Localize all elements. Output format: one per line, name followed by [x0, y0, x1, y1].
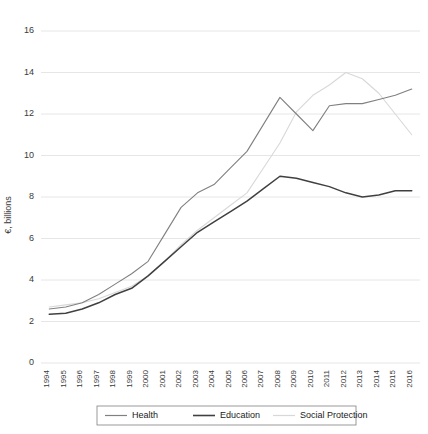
- legend-label-social-protection: Social Protection: [300, 410, 368, 420]
- y-axis-tick-label: 2: [29, 316, 34, 326]
- x-axis-tick-labels: 1994199519961997199819992000200120022003…: [42, 369, 414, 387]
- series-line-social-protection: [49, 73, 412, 307]
- x-axis-tick-label: 2000: [141, 369, 150, 387]
- x-axis-tick-label: 2007: [256, 369, 265, 387]
- y-axis-tick-label: 6: [29, 233, 34, 243]
- x-axis-tick-label: 2009: [289, 369, 298, 387]
- x-axis-tick-label: 1998: [108, 369, 117, 387]
- x-axis-tick-label: 2016: [405, 369, 414, 387]
- y-axis-tick-label: 10: [24, 150, 34, 160]
- y-axis-tick-labels: 0246810121416: [24, 25, 34, 367]
- y-axis-tick-label: 8: [29, 191, 34, 201]
- x-axis-tick-label: 2004: [207, 369, 216, 387]
- y-axis-title: €, billions: [3, 196, 13, 234]
- x-axis-tick-label: 2013: [355, 369, 364, 387]
- x-axis-tick-label: 2011: [322, 369, 331, 387]
- x-axis-tick-label: 1995: [59, 369, 68, 387]
- x-axis-tick-label: 2001: [158, 369, 167, 387]
- series-line-health: [49, 89, 412, 309]
- y-axis-tick-label: 0: [29, 357, 34, 367]
- x-axis-tick-label: 1997: [92, 369, 101, 387]
- x-axis-tick-label: 2002: [174, 369, 183, 387]
- x-axis-tick-label: 2010: [306, 369, 315, 387]
- x-axis-tick-label: 2005: [224, 369, 233, 387]
- legend-label-education: Education: [220, 410, 260, 420]
- x-axis-tick-label: 2006: [240, 369, 249, 387]
- chart-legend: HealthEducationSocial Protection: [97, 406, 368, 425]
- y-axis-tick-label: 4: [29, 274, 34, 284]
- x-axis-tick-label: 1999: [125, 369, 134, 387]
- line-chart: 0246810121416 19941995199619971998199920…: [0, 0, 428, 434]
- x-axis-tick-label: 2014: [372, 369, 381, 387]
- x-axis-tick-label: 1996: [75, 369, 84, 387]
- chart-container: 0246810121416 19941995199619971998199920…: [0, 0, 428, 434]
- y-axis-tick-label: 12: [24, 108, 34, 118]
- x-axis-tick-label: 2003: [191, 369, 200, 387]
- x-axis-tick-label: 2008: [273, 369, 282, 387]
- x-axis-tick-label: 2015: [388, 369, 397, 387]
- y-axis-tick-label: 14: [24, 67, 34, 77]
- series-lines: [49, 73, 412, 315]
- y-axis-tick-label: 16: [24, 25, 34, 35]
- x-axis-tick-label: 2012: [339, 369, 348, 387]
- x-axis-tick-label: 1994: [42, 369, 51, 387]
- legend-label-health: Health: [132, 410, 158, 420]
